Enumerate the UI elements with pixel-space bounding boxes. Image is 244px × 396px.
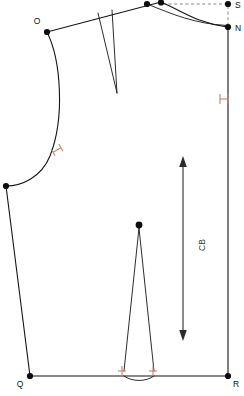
pattern-drawing: O S N Q R CB bbox=[0, 0, 244, 396]
point-labels: O S N Q R CB bbox=[17, 0, 241, 389]
vertex-dots bbox=[3, 0, 231, 379]
shoulder-dart bbox=[98, 10, 117, 93]
vertex-dot-point-o bbox=[44, 29, 50, 35]
vertex-dot-point-q bbox=[27, 373, 33, 379]
waist-dart bbox=[124, 228, 154, 381]
grainline-arrowhead-bottom bbox=[179, 330, 187, 341]
grainline-arrow bbox=[179, 156, 187, 341]
vertex-dot-dart-apex bbox=[136, 222, 143, 229]
seam-outline bbox=[6, 2, 228, 376]
label-point-n: N bbox=[235, 23, 241, 33]
armhole-curve bbox=[6, 32, 60, 186]
label-point-r: R bbox=[233, 379, 239, 389]
vertex-dot-point-n bbox=[225, 24, 231, 30]
label-point-q: Q bbox=[17, 379, 24, 389]
waist-dart-leg-left bbox=[124, 228, 139, 371]
neckline-outer-curve bbox=[161, 2, 227, 27]
vertex-dot-neck-outer bbox=[158, 0, 164, 6]
vertex-dot-neck-inner bbox=[144, 1, 150, 7]
waist-dart-leg-right bbox=[139, 228, 154, 371]
label-grainline-cb: CB bbox=[197, 239, 207, 251]
side-seam-line bbox=[6, 186, 30, 376]
notch-centre-back bbox=[220, 94, 228, 104]
label-point-s: S bbox=[235, 0, 241, 10]
notch-dart-right bbox=[149, 366, 157, 376]
pattern-canvas: O S N Q R CB bbox=[0, 0, 244, 396]
waist-dart-hem-curve bbox=[124, 376, 154, 381]
label-point-o: O bbox=[34, 16, 41, 26]
vertex-dot-underarm bbox=[3, 183, 9, 189]
shoulder-seam-line bbox=[47, 2, 161, 32]
vertex-dot-point-r bbox=[225, 373, 231, 379]
vertex-dot-point-s bbox=[225, 1, 231, 7]
grainline-arrowhead-top bbox=[179, 156, 187, 167]
